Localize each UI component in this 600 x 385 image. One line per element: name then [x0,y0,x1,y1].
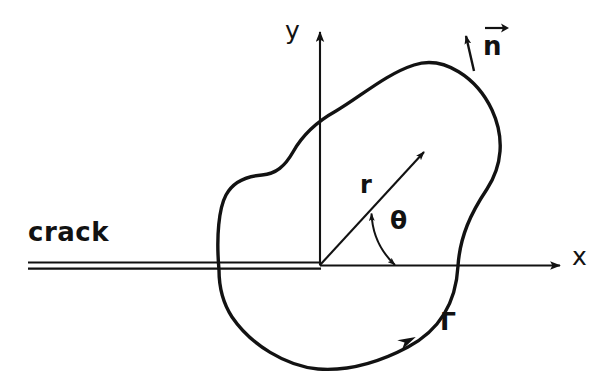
contour-label: Γ [440,309,456,334]
normal-vector-letter: n [483,33,502,59]
normal-vector-label-group: n [483,22,517,66]
figure-canvas: crack y x r θ Γ n [0,0,600,385]
contour-gamma [218,63,500,370]
radius-vector-r [320,152,424,265]
crack-line [28,263,321,269]
angle-label: θ [390,208,407,233]
x-axis-label: x [572,244,587,269]
y-axis-label: y [285,18,300,43]
outward-normal-vector [466,36,474,71]
crack-label: crack [28,219,109,245]
radius-label: r [360,173,372,197]
